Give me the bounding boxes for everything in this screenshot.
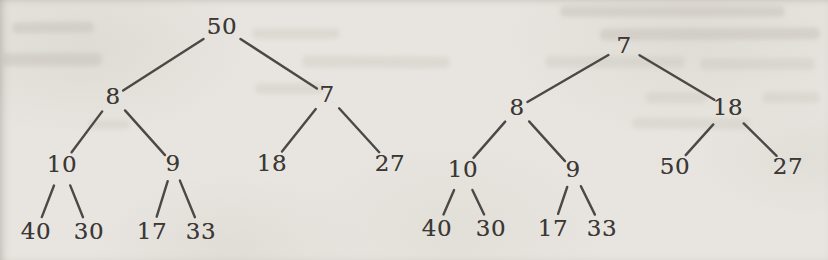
tree-node-left-tree-27: 27 xyxy=(375,152,405,175)
tree-node-left-tree-18: 18 xyxy=(257,152,287,175)
tree-node-right-tree-40: 40 xyxy=(422,217,452,240)
tree-node-left-tree-30: 30 xyxy=(74,220,104,243)
tree-node-right-tree-27: 27 xyxy=(773,155,803,178)
tree-node-right-tree-50: 50 xyxy=(660,155,690,178)
tree-node-right-tree-30: 30 xyxy=(476,217,506,240)
tree-node-left-tree-17: 17 xyxy=(137,220,167,243)
tree-node-right-tree-8: 8 xyxy=(509,96,524,119)
scanned-book-figure: 50871091827403017337818109502740301733 xyxy=(0,0,828,260)
tree-node-right-tree-10: 10 xyxy=(448,158,478,181)
tree-node-left-tree-50: 50 xyxy=(207,15,237,38)
tree-nodes-layer: 50871091827403017337818109502740301733 xyxy=(0,0,828,260)
tree-node-left-tree-33: 33 xyxy=(186,220,216,243)
tree-node-right-tree-7: 7 xyxy=(616,34,631,57)
tree-node-left-tree-7: 7 xyxy=(319,83,334,106)
tree-node-left-tree-40: 40 xyxy=(21,220,51,243)
tree-node-right-tree-18: 18 xyxy=(713,96,743,119)
tree-node-left-tree-10: 10 xyxy=(47,153,77,176)
tree-node-right-tree-17: 17 xyxy=(538,217,568,240)
tree-node-right-tree-9: 9 xyxy=(565,158,580,181)
tree-node-left-tree-8: 8 xyxy=(105,85,120,108)
tree-node-right-tree-33: 33 xyxy=(587,217,617,240)
tree-node-left-tree-9: 9 xyxy=(165,152,180,175)
